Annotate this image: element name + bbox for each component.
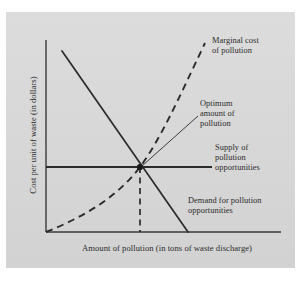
annotation-supply: Supply of pollution opportunities xyxy=(215,143,260,174)
figure-page: Marginal cost of pollution Optimum amoun… xyxy=(0,0,304,281)
annotation-marginal-cost: Marginal cost of pollution xyxy=(212,36,259,56)
y-axis-label: Cost per unit of waste (in dollars) xyxy=(26,40,40,230)
x-axis-label: Amount of pollution (in tons of waste di… xyxy=(46,243,288,253)
y-axis-label-wrapper: Cost per unit of waste (in dollars) xyxy=(26,40,40,230)
annotation-demand: Demand for pollution opportunities xyxy=(188,196,292,216)
annotation-optimum: Optimum amount of pollution xyxy=(200,99,235,130)
